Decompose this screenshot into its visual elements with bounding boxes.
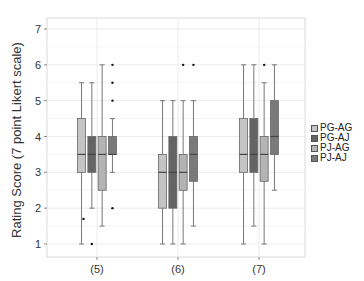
box-pj-aj <box>108 137 116 155</box>
plot-svg: 1234567(5)(6)(7) <box>0 0 364 281</box>
y-tick-label: 5 <box>35 95 41 107</box>
outlier-point <box>111 64 113 66</box>
box-pg-ag <box>78 119 86 173</box>
outlier-point <box>192 64 194 66</box>
box-plot-chart: 1234567(5)(6)(7) Rating Score (7 point L… <box>0 0 364 281</box>
y-tick-label: 3 <box>35 166 41 178</box>
box-pj-aj <box>189 137 197 182</box>
outlier-point <box>111 207 113 209</box>
outlier-point <box>263 64 265 66</box>
outlier-point <box>182 64 184 66</box>
y-tick-label: 4 <box>35 131 41 143</box>
outlier-point <box>82 218 84 220</box>
outlier-point <box>111 99 113 101</box>
legend-label: PJ-AJ <box>320 153 347 163</box>
legend: PG-AGPG-AJPJ-AGPJ-AJ <box>311 123 352 163</box>
legend-swatch <box>311 135 318 142</box>
box-pg-ag <box>159 154 167 208</box>
box-pg-ag <box>240 119 248 173</box>
y-tick-label: 1 <box>35 238 41 250</box>
box-pj-aj <box>270 101 278 155</box>
x-tick-label: (5) <box>90 263 103 275</box>
legend-swatch <box>311 145 318 152</box>
box-pj-ag <box>260 137 268 182</box>
x-tick-label: (6) <box>171 263 184 275</box>
x-tick-label: (7) <box>252 263 265 275</box>
box-pj-ag <box>98 137 106 191</box>
y-tick-label: 7 <box>35 23 41 35</box>
y-axis-label: Rating Score (7 point Likert scale) <box>9 42 24 238</box>
legend-swatch <box>311 155 318 162</box>
y-tick-label: 2 <box>35 202 41 214</box>
legend-swatch <box>311 125 318 132</box>
box-pg-aj <box>250 119 258 173</box>
outlier-point <box>111 82 113 84</box>
outlier-point <box>91 243 93 245</box>
y-tick-label: 6 <box>35 59 41 71</box>
legend-item: PJ-AJ <box>311 153 352 163</box>
